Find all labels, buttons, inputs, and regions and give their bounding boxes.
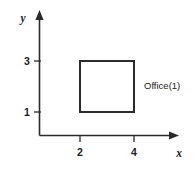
x-axis-label: x <box>175 147 182 159</box>
x-tick-label-4: 4 <box>131 146 137 158</box>
coordinate-diagram: y x 3 1 2 4 Office(1) <box>0 0 196 169</box>
y-tick-label-1: 1 <box>24 106 30 118</box>
y-tick-label-3: 3 <box>24 55 30 67</box>
y-axis-arrowhead-icon <box>35 10 43 20</box>
y-axis-label: y <box>18 12 26 25</box>
office-rectangle <box>80 61 134 112</box>
x-tick-label-2: 2 <box>77 146 83 158</box>
office-label: Office(1) <box>144 80 180 91</box>
x-axis-arrowhead-icon <box>169 131 179 139</box>
